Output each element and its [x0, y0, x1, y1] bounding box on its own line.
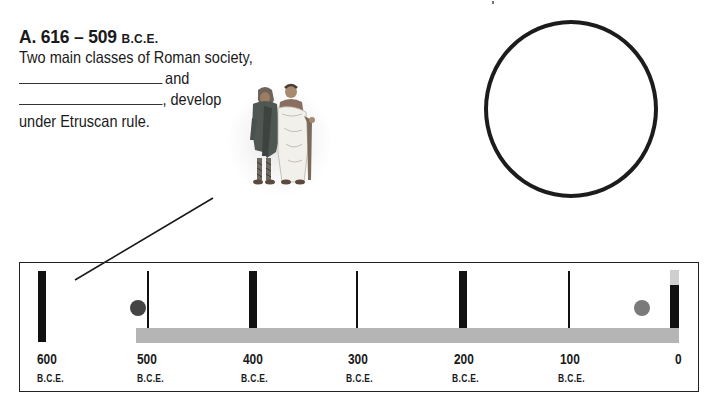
prompt-line-4: under Etruscan rule. — [19, 111, 150, 131]
section-era: B.C.E. — [122, 31, 159, 46]
prompt-develop: , develop — [162, 90, 221, 108]
tick-era-300: B.C.E. — [346, 373, 373, 384]
section-title: A. 616 – 509 B.C.E. — [19, 26, 158, 48]
tick-200-bce — [459, 271, 467, 328]
tick-era-400: B.C.E. — [241, 373, 268, 384]
tick-500-bce — [147, 271, 149, 328]
answer-blank-2[interactable] — [19, 89, 162, 105]
prompt-line-3: , develop — [19, 89, 221, 109]
tick-label-100: 100 — [560, 351, 580, 367]
roman-figures-illustration — [228, 78, 332, 196]
tick-era-200: B.C.E. — [452, 373, 479, 384]
tick-300-bce — [356, 271, 358, 328]
timeline-bar — [136, 328, 679, 343]
tick-label-200: 200 — [454, 351, 474, 367]
prompt-and: and — [165, 69, 189, 87]
answer-circle[interactable] — [484, 20, 658, 198]
tick-100-bce — [568, 271, 570, 328]
tick-0-cap — [670, 270, 679, 285]
roman-figures-icon — [228, 78, 332, 196]
event-dot-509bce[interactable] — [130, 300, 146, 316]
tick-600-bce — [38, 271, 46, 342]
tick-era-500: B.C.E. — [137, 373, 164, 384]
tick-label-600: 600 — [37, 351, 57, 367]
answer-blank-1[interactable] — [19, 68, 162, 84]
tick-label-500: 500 — [137, 351, 157, 367]
event-dot-27bce[interactable] — [634, 300, 650, 316]
tick-era-600: B.C.E. — [37, 373, 64, 384]
tick-label-0: 0 — [675, 351, 682, 367]
tick-label-400: 400 — [243, 351, 263, 367]
tick-400-bce — [249, 271, 257, 328]
prompt-line-1: Two main classes of Roman society, — [19, 47, 253, 67]
prompt-line-2: and — [19, 68, 189, 88]
tick-label-300: 300 — [348, 351, 368, 367]
section-date-range: A. 616 – 509 — [19, 26, 117, 47]
tick-era-100: B.C.E. — [558, 373, 585, 384]
tick-0 — [670, 285, 679, 328]
stray-mark — [492, 1, 494, 4]
